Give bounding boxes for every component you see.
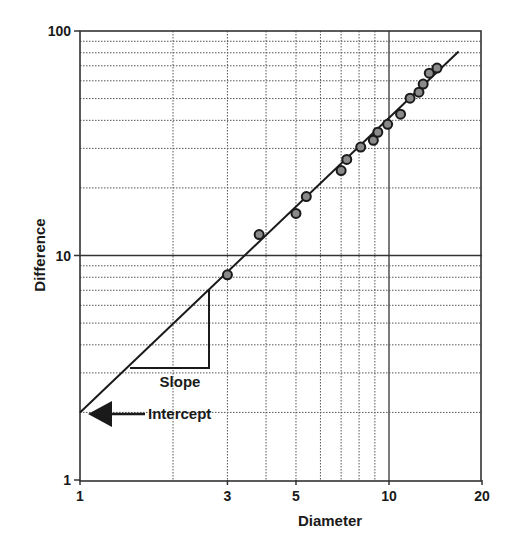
data-point — [432, 64, 441, 73]
data-point — [373, 128, 382, 137]
data-point — [406, 94, 415, 103]
data-point — [337, 166, 346, 175]
intercept-annotation: Intercept — [148, 405, 211, 422]
x-tick-labels: 1351020 — [76, 488, 490, 504]
arrow-head-icon — [88, 401, 112, 427]
grid-lines — [80, 31, 482, 480]
fit-line — [80, 52, 459, 413]
slope-annotation: Slope — [160, 373, 201, 390]
x-tick-label: 5 — [292, 488, 300, 504]
log-log-chart: 1351020 110100 Diameter Difference Slope… — [0, 0, 515, 547]
data-point — [342, 155, 351, 164]
y-axis-label: Difference — [31, 218, 48, 291]
x-tick-label: 10 — [381, 488, 397, 504]
data-point — [302, 192, 311, 201]
x-tick-label: 1 — [76, 488, 84, 504]
x-axis-label: Diameter — [298, 512, 362, 529]
fitted-line — [80, 52, 459, 413]
axis-ticks — [74, 31, 482, 485]
x-tick-label: 3 — [224, 488, 232, 504]
y-tick-label: 10 — [55, 248, 71, 264]
y-tick-labels: 110100 — [48, 23, 72, 488]
data-point — [291, 209, 300, 218]
intercept-arrow — [88, 401, 145, 427]
data-point — [383, 120, 392, 129]
y-tick-label: 1 — [63, 472, 71, 488]
data-point — [356, 143, 365, 152]
y-tick-label: 100 — [48, 23, 72, 39]
data-point — [396, 110, 405, 119]
data-point — [419, 80, 428, 89]
data-point — [223, 270, 232, 279]
x-tick-label: 20 — [474, 488, 490, 504]
data-point — [255, 230, 264, 239]
